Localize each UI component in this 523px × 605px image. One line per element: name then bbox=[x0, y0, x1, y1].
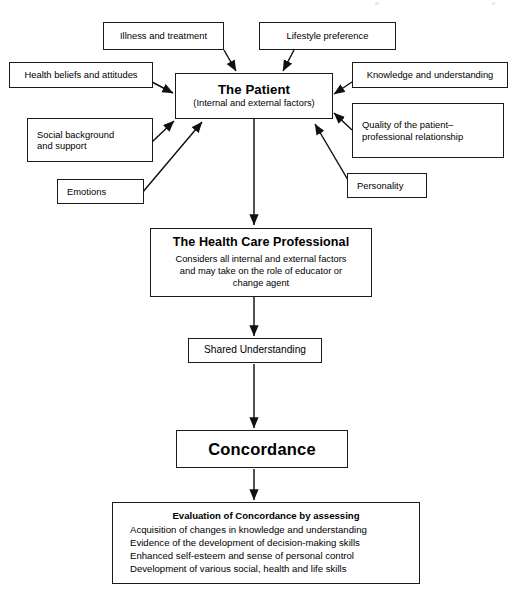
node-label: Illness and treatment bbox=[120, 30, 207, 41]
arrow-lifestyle-to-patient bbox=[283, 50, 294, 71]
node-label-line1: Quality of the patient– bbox=[362, 119, 453, 130]
node-concordance[interactable]: Concordance bbox=[176, 430, 348, 468]
node-emotions[interactable]: Emotions bbox=[57, 179, 144, 204]
evaluation-list-item: Evidence of the development of decision-… bbox=[130, 536, 419, 549]
node-body-line1: Considers all internal and external fact… bbox=[175, 253, 346, 265]
node-lifestyle-preference[interactable]: Lifestyle preference bbox=[259, 22, 396, 50]
arrow-quality-relationship-to-patient bbox=[334, 113, 352, 130]
node-body-line2: and may take on the role of educator or bbox=[180, 265, 342, 277]
arrow-health-beliefs-to-patient bbox=[152, 82, 173, 93]
arrow-illness-to-patient bbox=[224, 50, 236, 71]
node-label-line1: Social background bbox=[37, 129, 114, 140]
node-label: Health beliefs and attitudes bbox=[24, 69, 137, 80]
evaluation-heading: Evaluation of Concordance by assessing bbox=[113, 510, 419, 522]
node-health-beliefs-and-attitudes[interactable]: Health beliefs and attitudes bbox=[9, 62, 153, 88]
node-label: Shared Understanding bbox=[204, 344, 306, 356]
arrow-knowledge-to-patient bbox=[334, 82, 352, 94]
node-subtitle: (Internal and external factors) bbox=[193, 98, 314, 109]
node-label-line2: and support bbox=[37, 140, 87, 151]
scan-artifact bbox=[492, 2, 495, 5]
node-personality[interactable]: Personality bbox=[347, 173, 427, 198]
node-illness-and-treatment[interactable]: Illness and treatment bbox=[103, 22, 224, 50]
evaluation-list-item: Enhanced self-esteem and sense of person… bbox=[130, 549, 419, 562]
node-label: Lifestyle preference bbox=[287, 30, 369, 41]
node-evaluation-of-concordance[interactable]: Evaluation of Concordance by assessing A… bbox=[112, 502, 420, 584]
node-label-line2: professional relationship bbox=[362, 131, 463, 142]
scan-artifact bbox=[375, 2, 379, 5]
node-label: Concordance bbox=[208, 439, 316, 459]
node-knowledge-and-understanding[interactable]: Knowledge and understanding bbox=[352, 62, 508, 88]
node-label: Knowledge and understanding bbox=[367, 69, 494, 80]
node-label: Personality bbox=[357, 180, 403, 191]
arrow-personality-to-patient bbox=[315, 124, 348, 180]
node-body-line3: change agent bbox=[233, 277, 289, 289]
node-shared-understanding[interactable]: Shared Understanding bbox=[188, 338, 322, 363]
node-social-background-and-support[interactable]: Social background and support bbox=[27, 118, 153, 162]
evaluation-list-item: Acquisition of changes in knowledge and … bbox=[130, 523, 419, 536]
arrow-social-background-to-patient bbox=[152, 121, 174, 142]
node-title: The Patient bbox=[218, 82, 290, 98]
node-the-patient[interactable]: The Patient (Internal and external facto… bbox=[175, 73, 333, 119]
node-quality-of-relationship[interactable]: Quality of the patient– professional rel… bbox=[352, 103, 504, 158]
diagram-canvas: Illness and treatment Lifestyle preferen… bbox=[0, 0, 523, 605]
evaluation-list-item: Development of various social, health an… bbox=[130, 562, 419, 575]
node-health-care-professional[interactable]: The Health Care Professional Considers a… bbox=[150, 228, 372, 297]
evaluation-list: Acquisition of changes in knowledge and … bbox=[113, 523, 419, 576]
node-title: The Health Care Professional bbox=[173, 235, 349, 250]
node-label: Emotions bbox=[67, 186, 106, 197]
